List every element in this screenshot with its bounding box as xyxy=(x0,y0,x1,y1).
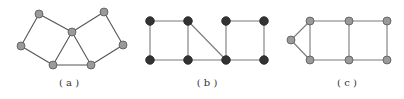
node-c4 xyxy=(306,56,314,64)
node-c6 xyxy=(383,56,391,64)
edge-a3-a6 xyxy=(72,12,104,32)
node-a5 xyxy=(87,61,95,69)
graph-c-edges xyxy=(291,21,387,60)
edge-a1-a3 xyxy=(39,14,72,32)
node-c2 xyxy=(345,17,353,25)
edge-a2-a4 xyxy=(21,46,53,65)
edge-a7-a5 xyxy=(91,45,123,65)
edge-a1-a2 xyxy=(21,14,39,46)
graph-a: ( a ) xyxy=(17,8,127,88)
graph-c-nodes xyxy=(287,17,391,64)
edge-a3-a4 xyxy=(53,32,72,65)
node-a4 xyxy=(49,61,57,69)
node-b1 xyxy=(146,17,155,26)
node-b8 xyxy=(260,56,269,65)
edge-a3-a5 xyxy=(72,32,91,65)
node-b2 xyxy=(184,17,193,26)
node-b4 xyxy=(260,17,269,26)
node-a1 xyxy=(35,10,43,18)
graph-b-label: ( b ) xyxy=(197,77,218,88)
graph-a-label: ( a ) xyxy=(59,77,79,88)
node-c0 xyxy=(287,36,295,44)
node-b5 xyxy=(146,56,155,65)
node-a6 xyxy=(100,8,108,16)
graph-diagram: ( a ) ( b ) ( c ) xyxy=(0,0,404,99)
graph-a-nodes xyxy=(17,8,127,69)
node-c1 xyxy=(306,17,314,25)
edge-a6-a7 xyxy=(104,12,123,45)
node-c5 xyxy=(345,56,353,64)
edge-b2-b7 xyxy=(188,21,226,60)
graph-a-edges xyxy=(21,12,123,65)
node-a3 xyxy=(68,28,76,36)
node-a2 xyxy=(17,42,25,50)
graph-c-label: ( c ) xyxy=(337,77,357,88)
node-a7 xyxy=(119,41,127,49)
graph-b: ( b ) xyxy=(146,17,269,88)
node-b6 xyxy=(184,56,193,65)
node-c3 xyxy=(383,17,391,25)
graph-b-edges xyxy=(150,21,264,60)
node-b3 xyxy=(222,17,231,26)
graph-c: ( c ) xyxy=(287,17,391,88)
node-b7 xyxy=(222,56,231,65)
